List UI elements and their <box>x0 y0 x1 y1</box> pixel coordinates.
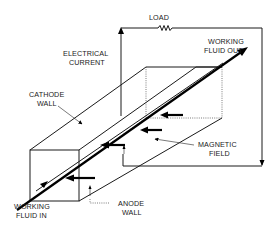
cathode-wall-label-line2: WALL <box>37 99 57 108</box>
resistor-icon <box>158 26 172 31</box>
circuit-arrow-down-icon <box>260 160 265 166</box>
electrical-current-label-line2: CURRENT <box>69 58 105 67</box>
anode-wall-label-line2: WALL <box>122 208 142 217</box>
fluid-flow-line <box>17 50 244 210</box>
magnetic-field-label-line1: MAGNETIC <box>198 140 237 149</box>
working-fluid-in-label-line2: FLUID IN <box>16 211 47 220</box>
current-arrows <box>89 145 126 196</box>
mhd-generator-diagram: LOAD ELECTRICAL CURRENT WORKING FLUID OU… <box>0 0 275 234</box>
load-label: LOAD <box>149 13 169 22</box>
anode-wall-leader <box>90 199 109 203</box>
anode-wall-label-line1: ANODE <box>118 199 144 208</box>
magnetic-field-arrow <box>140 127 162 134</box>
working-fluid-out-label-line1: WORKING <box>208 37 244 46</box>
channel-top-right-edge <box>79 67 196 150</box>
magnetic-field-label-line2: FIELD <box>209 149 230 158</box>
magnetic-field-arrow <box>65 175 95 182</box>
magnetic-field-arrow <box>160 112 183 119</box>
working-fluid-out-label-line2: FLUID OUT <box>204 46 243 55</box>
magnetic-field-leader <box>155 139 194 145</box>
electrical-current-label-line1: ELECTRICAL <box>63 49 108 58</box>
working-fluid-flow <box>17 47 248 210</box>
cathode-wall-label-line1: CATHODE <box>29 90 64 99</box>
channel-top-left-edge <box>30 67 146 150</box>
working-fluid-in-label-line1: WORKING <box>14 202 50 211</box>
